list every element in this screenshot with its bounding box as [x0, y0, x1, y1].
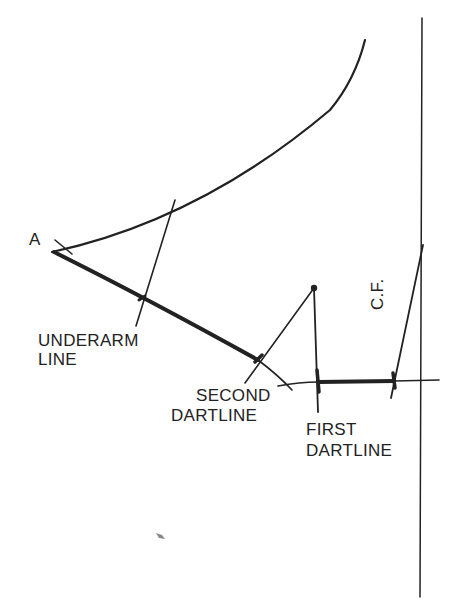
- label-center-front: C.F.: [368, 279, 387, 310]
- dart-apex-point: [311, 285, 317, 291]
- label-first-dartline-2: DARTLINE: [306, 441, 392, 460]
- second-dartline: [245, 288, 314, 383]
- center-front-line: [391, 245, 423, 398]
- label-second-dartline-1: SECOND: [196, 386, 271, 405]
- label-second-dartline-2: DARTLINE: [171, 406, 257, 425]
- label-underarm-line-2: LINE: [38, 350, 77, 369]
- armhole-curve: [52, 40, 365, 252]
- first-dartline: [314, 288, 318, 412]
- label-underarm-line-1: UNDERARM: [38, 331, 139, 350]
- vertical-reference-line: [420, 18, 422, 597]
- label-first-dartline-1: FIRST: [306, 420, 357, 439]
- waist-line: [318, 381, 394, 382]
- label-point-a: A: [29, 230, 41, 249]
- pattern-diagram: A UNDERARM LINE SECOND DARTLINE FIRST DA…: [0, 0, 455, 613]
